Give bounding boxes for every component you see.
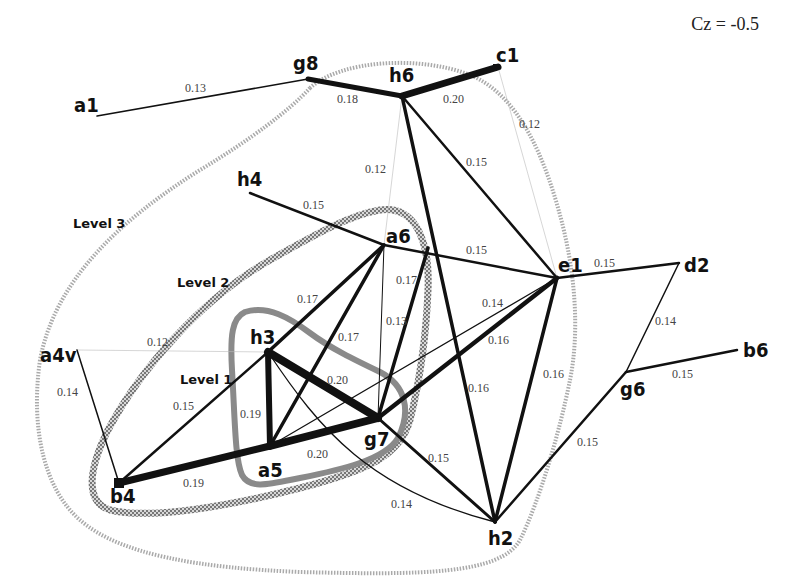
node-a6: a6 [386, 224, 411, 248]
edge-weight-a5-e1: 0.14 [482, 296, 503, 310]
network-diagram: 0.130.180.200.120.120.150.160.150.150.15… [0, 0, 785, 586]
node-d2: d2 [684, 253, 709, 277]
edge-weight-a4v-b4: 0.14 [57, 385, 78, 399]
edge-weight-d2-g6: 0.14 [655, 314, 676, 328]
node-a5: a5 [258, 458, 283, 482]
edge-weight-a6-a5: 0.17 [338, 330, 359, 344]
edge-weight-a1-g8: 0.13 [185, 81, 206, 95]
edge-weight-a6-g7: 0.13 [386, 314, 407, 328]
node-c1: c1 [496, 43, 519, 67]
edge-weight-h6-a6: 0.12 [365, 162, 386, 176]
level3-label: Level 3 [73, 216, 125, 231]
node-a4v: a4v [40, 343, 77, 367]
edge-weight-a6-e1: 0.15 [466, 243, 487, 257]
edge-weight-h3-g7: 0.20 [327, 373, 348, 387]
edge-weight-b4-a5: 0.19 [183, 476, 204, 490]
edge-h3-a5 [268, 352, 270, 446]
edge-weight-h6-h2: 0.16 [468, 381, 489, 395]
edge-weight-g7-h2: 0.15 [428, 451, 449, 465]
edge-weight-h4-a6: 0.15 [303, 198, 324, 212]
node-g7: g7 [364, 427, 389, 451]
edge-a4v-h3 [77, 350, 268, 352]
edge-weight-g6-h2: 0.15 [577, 435, 598, 449]
edge-weight-h3-h2: 0.14 [391, 497, 412, 511]
edge-weight-e1-d2: 0.15 [594, 256, 615, 270]
node-b6: b6 [743, 338, 768, 362]
node-a1: a1 [74, 93, 99, 117]
node-b4: b4 [110, 484, 135, 508]
edge-weight-a4v-h3: 0.12 [147, 335, 168, 349]
edge-a6-h3-real [268, 245, 384, 352]
node-g8: g8 [293, 51, 318, 75]
edge-weight-a6-h3: 0.17 [297, 292, 318, 306]
node-h2: h2 [488, 526, 513, 550]
node-e1: e1 [558, 253, 583, 277]
cz-annotation: Cz = -0.5 [691, 14, 759, 35]
edge-weight-a5-g7: 0.20 [307, 447, 328, 461]
edge-weight-h3-a5: 0.19 [240, 407, 261, 421]
edge-weight-e1-h2: 0.16 [543, 367, 564, 381]
edge-weight-c1-e1: 0.12 [519, 117, 540, 131]
edge-weight-h6-c1: 0.20 [443, 92, 464, 106]
edge-a6-g7 [378, 245, 384, 418]
edge-weight-b4-h3: 0.15 [173, 399, 194, 413]
level2-label: Level 2 [177, 275, 229, 290]
node-h6: h6 [389, 63, 414, 87]
edge-h6-a6 [384, 96, 402, 245]
level1-label: Level 1 [180, 372, 232, 387]
node-g6: g6 [620, 377, 645, 401]
node-h3: h3 [250, 325, 275, 349]
edges [77, 67, 737, 522]
edge-weight-g7-e1: 0.16 [488, 333, 509, 347]
edge-a5-g7 [270, 418, 378, 446]
node-h4: h4 [237, 167, 262, 191]
edge-weight-h6-e1: 0.15 [466, 155, 487, 169]
edge-weight-g6-b6: 0.15 [672, 367, 693, 381]
edge-weight-h6-g7: 0.17 [396, 273, 417, 287]
edge-weight-g8-h6: 0.18 [337, 92, 358, 106]
